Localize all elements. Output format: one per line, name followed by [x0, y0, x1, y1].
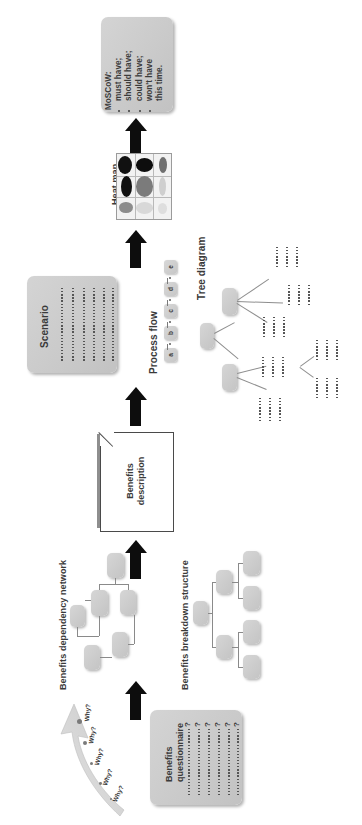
tree-leaf-line	[326, 378, 328, 400]
bbs-leaf-node	[243, 655, 260, 679]
benefits-description-label: Benefits description	[125, 445, 147, 517]
tree-leaf-line	[259, 398, 261, 421]
questionnaire-line	[228, 729, 230, 795]
questionnaire-line	[218, 729, 220, 795]
questionnaire-qmark: ?	[193, 722, 202, 727]
moscow-text-block: MoSCoW: must have; should have; could ha…	[104, 20, 170, 110]
moscow-item: this time.	[155, 20, 165, 110]
benefits-dependency-network-label: Benefits dependency network	[58, 560, 68, 690]
tree-leaf-line	[336, 340, 338, 360]
heatmap-blob	[118, 156, 132, 175]
tree-leaf-line	[316, 340, 318, 360]
moscow-list: must have; should have; could have; won'…	[114, 20, 165, 110]
bbs-leaf-node	[243, 551, 260, 575]
tree-leaf-line	[263, 317, 265, 339]
tree-leaf-line	[298, 285, 300, 305]
questionnaire-qmark: ?	[203, 722, 212, 727]
benefits-questionnaire-label: Benefits questionnaire	[164, 723, 186, 782]
bbs-branch-node	[216, 635, 232, 659]
process-flow-step-letter: b	[164, 327, 178, 340]
why-label: Why?	[83, 704, 91, 722]
heatmap-blob	[158, 203, 167, 214]
tree-leaf-line	[316, 378, 318, 400]
benefits-questionnaire-card: Benefits questionnaire ? ? ? ? ? ?	[150, 710, 242, 805]
questionnaire-line	[198, 729, 200, 795]
tree-leaf-line	[269, 398, 271, 421]
bdn-node	[91, 590, 108, 616]
moscow-item: should have;	[124, 20, 134, 101]
heatmap-blob	[136, 202, 153, 214]
questionnaire-qmark: ?	[232, 722, 241, 727]
moscow-item: could have;	[135, 20, 145, 101]
scenario-text-line	[103, 288, 105, 361]
bbs-root-node	[193, 601, 208, 625]
tree-root-node	[200, 323, 214, 349]
bdn-node	[107, 553, 124, 578]
diagram-canvas: MoSCoW: must have; should have; could ha…	[0, 0, 362, 825]
benefits-breakdown-structure-label: Benefits breakdown structure	[180, 560, 190, 690]
questionnaire-qmark: ?	[223, 722, 232, 727]
tree-leaf-line	[286, 247, 288, 269]
bbs-leaf-node	[243, 586, 260, 610]
scenario-text-line	[72, 288, 74, 361]
process-flow-label: Process flow	[148, 311, 159, 374]
tree-leaf-line	[262, 357, 264, 379]
bdn-node	[84, 645, 100, 670]
tree-leaf-line	[336, 378, 338, 400]
tree-leaf-line	[276, 247, 278, 269]
process-flow-step-letter: c	[164, 305, 178, 318]
tree-leaf-line	[279, 398, 281, 421]
tree-leaf-line	[296, 247, 298, 269]
tree-leaf-line	[283, 317, 285, 339]
bdn-node	[120, 590, 136, 615]
tree-branch-node	[222, 364, 237, 391]
heatmap-blob	[136, 176, 153, 196]
tree-leaf-line	[282, 357, 284, 379]
benefits-description-document: Benefits description	[97, 432, 175, 530]
why-arrow: Why? Why? Why? Why? Why?	[58, 688, 136, 820]
moscow-item: won't have	[145, 20, 155, 101]
heatmap-blob	[159, 177, 166, 197]
tree-leaf-line	[288, 285, 290, 305]
process-flow-step-letter: e	[164, 261, 178, 274]
scenario-text-line	[61, 288, 63, 361]
heatmap-blob	[159, 157, 167, 173]
moscow-item: must have;	[114, 20, 124, 101]
scenario-card: Scenario	[27, 276, 117, 373]
process-flow-step-letter: a	[164, 349, 178, 362]
tree-leaf-line	[273, 317, 275, 339]
bdn-node	[70, 605, 85, 627]
scenario-label: Scenario	[39, 305, 50, 348]
questionnaire-qmark: ?	[213, 722, 222, 727]
tree-leaf-line	[308, 285, 310, 305]
questionnaire-line	[188, 729, 190, 795]
bdn-node	[112, 632, 128, 657]
bbs-branch-node	[216, 570, 232, 594]
tree-leaf-line	[272, 357, 274, 379]
questionnaire-qmark: ?	[183, 722, 192, 727]
process-flow-step-letter: d	[164, 283, 178, 296]
tree-branch-node	[222, 288, 237, 315]
questionnaire-line	[208, 729, 210, 795]
heatmap-grid	[116, 153, 172, 220]
heatmap-blob	[119, 202, 133, 213]
heatmap-blob	[121, 176, 132, 197]
moscow-card: MoSCoW: must have; should have; could ha…	[101, 17, 173, 112]
moscow-heading: MoSCoW:	[104, 20, 114, 110]
tree-diagram-label: Tree diagram	[196, 237, 207, 300]
scenario-text-line	[112, 288, 114, 361]
bbs-leaf-node	[243, 620, 260, 644]
questionnaire-line	[237, 729, 239, 795]
scenario-text-line	[83, 288, 85, 361]
heatmap-blob	[136, 158, 153, 172]
tree-leaf-line	[326, 340, 328, 360]
scenario-text-line	[93, 288, 95, 361]
